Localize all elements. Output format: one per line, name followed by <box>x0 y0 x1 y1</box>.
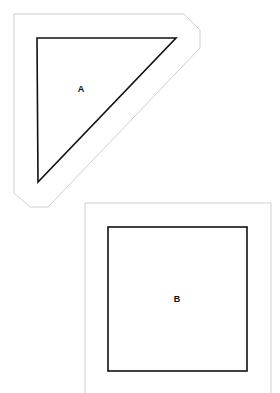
diagram-canvas: A B <box>0 0 280 393</box>
shape-a-triangle <box>37 38 176 182</box>
shape-a-label: A <box>78 84 85 94</box>
shape-b-label: B <box>174 294 181 304</box>
